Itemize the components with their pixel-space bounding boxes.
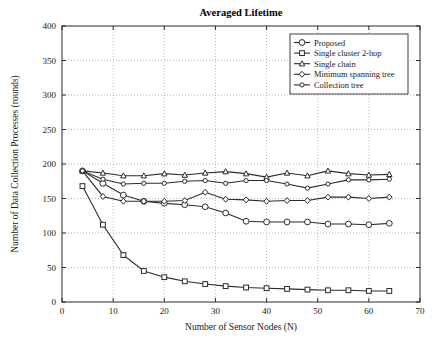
data-point-marker [325,168,330,173]
series-line-proposed [82,171,389,225]
data-point-marker [121,173,126,178]
data-point-marker [121,182,125,186]
data-point-marker [141,173,146,178]
data-point-marker [202,204,208,210]
data-point-marker [162,275,167,280]
data-point-marker [284,170,289,175]
data-point-marker [101,222,106,227]
y-axis-tick-label: 100 [43,228,57,238]
y-axis-tick-label: 50 [47,263,57,273]
x-axis-tick-label: 10 [109,306,119,316]
x-axis-tick-label: 20 [160,306,170,316]
data-point-marker [387,171,392,176]
data-point-marker [305,219,311,225]
legend-label: Proposed [314,39,346,48]
x-axis-tick-label: 50 [313,306,323,316]
series-line-single-chain [82,171,389,177]
data-point-marker [182,172,187,177]
averaged-lifetime-line-chart: Averaged Lifetime05010015020025030035040… [0,0,440,342]
x-axis-tick-label: 0 [60,306,65,316]
data-point-marker [387,194,392,200]
x-axis-title: Number of Sensor Nodes (N) [185,322,297,333]
data-point-marker [346,194,351,200]
data-point-marker [285,286,290,291]
data-point-marker [182,279,187,284]
x-axis-tick-label: 40 [262,306,272,316]
data-point-marker [223,169,228,174]
data-point-marker [264,178,268,182]
data-point-marker [366,222,372,228]
y-axis-tick-label: 350 [43,56,57,66]
data-point-marker [244,178,248,182]
data-point-marker [120,192,126,198]
data-point-marker [387,289,392,294]
data-point-marker [223,284,228,289]
y-axis-tick-label: 0 [52,297,57,307]
data-point-marker [386,220,392,226]
data-point-marker [305,186,309,190]
data-point-marker [224,181,228,185]
data-point-marker [243,197,248,203]
data-point-marker [325,194,330,200]
data-point-marker [203,189,208,195]
data-point-marker [243,218,249,224]
legend-label: Collection tree [314,81,364,90]
y-axis-tick-label: 300 [43,90,57,100]
data-point-marker [346,178,350,182]
series-line-single-cluster-2-hop [82,186,389,291]
data-point-marker [366,289,371,294]
data-point-marker [300,83,304,87]
data-point-marker [299,40,305,46]
data-point-marker [264,198,269,204]
y-axis-tick-label: 250 [43,125,57,135]
data-point-marker [300,51,305,56]
data-point-marker [366,196,371,202]
data-point-marker [121,253,126,258]
data-point-marker [162,181,166,185]
legend-label: Single chain [314,60,356,69]
chart-title: Averaged Lifetime [200,7,283,18]
y-axis-tick-label: 200 [43,159,57,169]
y-axis-tick-label: 150 [43,194,57,204]
data-point-marker [346,221,352,227]
data-point-marker [387,177,391,181]
data-point-marker [284,219,290,225]
legend-label: Single cluster 2-hop [314,49,381,58]
data-point-marker [142,181,146,185]
data-point-marker [264,286,269,291]
data-point-marker [305,173,310,178]
data-point-marker [162,171,167,176]
data-point-marker [121,198,126,204]
data-point-marker [203,170,208,175]
legend-label: Minimum spanning tree [314,70,395,79]
data-point-marker [325,221,331,227]
data-point-marker [346,288,351,293]
y-axis-title: Number of Data Collection Processes (rou… [10,75,21,253]
data-point-marker [346,171,351,176]
data-point-marker [326,182,330,186]
data-point-marker [366,172,371,177]
y-axis-tick-label: 400 [43,21,57,31]
data-point-marker [223,196,228,202]
data-point-marker [285,182,289,186]
data-point-marker [203,282,208,287]
data-point-marker [223,210,229,216]
data-point-marker [284,198,289,204]
data-point-marker [141,269,146,274]
data-point-marker [183,179,187,183]
data-point-marker [80,169,84,173]
data-point-marker [101,177,105,181]
x-axis-tick-label: 70 [416,306,426,316]
chart-figure: Averaged Lifetime05010015020025030035040… [0,0,440,342]
data-point-marker [244,285,249,290]
data-point-marker [264,219,270,225]
data-point-marker [326,288,331,293]
data-point-marker [100,170,105,175]
x-axis-tick-label: 30 [211,306,221,316]
data-point-marker [305,287,310,292]
data-point-marker [367,178,371,182]
data-point-marker [203,178,207,182]
data-point-marker [80,184,85,189]
data-point-marker [243,171,248,176]
x-axis-tick-label: 60 [364,306,374,316]
